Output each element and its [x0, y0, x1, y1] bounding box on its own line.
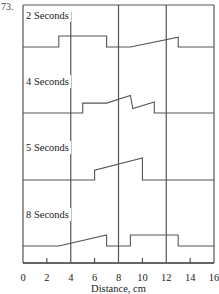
- tick-label: 14: [185, 272, 196, 283]
- panel-label: 2 Seconds: [26, 10, 69, 21]
- tick-label: 6: [92, 272, 97, 283]
- tick-label: 0: [20, 272, 25, 283]
- chart-grid: [23, 5, 214, 263]
- distance-waveform-chart: 2 Seconds4 Seconds5 Seconds8 Seconds 024…: [0, 0, 219, 294]
- tick-label: 12: [161, 272, 172, 283]
- tick-label: 4: [68, 272, 74, 283]
- x-axis-title: Distance, cm: [91, 283, 146, 294]
- tick-label: 10: [137, 272, 148, 283]
- panel-label: 8 Seconds: [26, 209, 69, 220]
- tick-label: 16: [209, 272, 219, 283]
- panel-label: 4 Seconds: [26, 76, 69, 87]
- tick-label: 8: [116, 272, 121, 283]
- tick-label: 2: [44, 272, 49, 283]
- panel-label: 5 Seconds: [26, 142, 69, 153]
